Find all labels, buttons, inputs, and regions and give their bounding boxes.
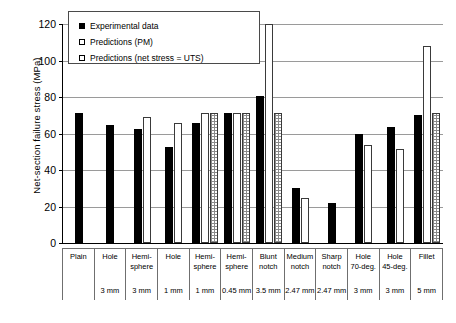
x-category-line2: notch: [322, 262, 340, 272]
bar: [134, 129, 142, 243]
legend-label-uts: Predictions (net stress = UTS): [90, 53, 204, 63]
x-category-line1: Hemi-: [132, 252, 152, 262]
x-category-size: 3.5 mm: [256, 286, 281, 300]
legend-item-experimental: Experimental data: [79, 18, 259, 33]
bar-group: [316, 24, 348, 243]
x-category-line1: Hemi-: [227, 252, 247, 262]
x-axis-category-cell: Hole45-deg.3 mm: [380, 249, 412, 300]
x-category-size: 3 mm: [354, 286, 373, 300]
x-category-size: 3 mm: [132, 286, 151, 300]
x-axis-category-cell: Fillet5 mm: [411, 249, 443, 300]
legend-label-pm: Predictions (PM): [90, 37, 153, 47]
x-axis-category-cell: Mediumnotch2.47 mm: [285, 249, 317, 300]
x-category-size: 3 mm: [386, 286, 405, 300]
x-category-line2: 45-deg.: [382, 262, 407, 272]
x-category-size: 2.47 mm: [285, 286, 314, 300]
x-axis-category-cell: Hemi-sphere1 mm: [190, 249, 222, 300]
bar: [387, 127, 395, 243]
x-category-line1: Medium: [287, 252, 314, 262]
legend-item-pm: Predictions (PM): [79, 34, 259, 49]
chart-legend: Experimental data Predictions (PM) Predi…: [68, 11, 260, 64]
x-axis-category-table: PlainHole3 mmHemi-sphere3 mmHole1 mmHemi…: [62, 248, 443, 300]
x-category-line1: Plain: [70, 252, 87, 262]
x-category-line2: 70-deg.: [351, 262, 376, 272]
legend-item-uts: Predictions (net stress = UTS): [79, 50, 259, 65]
y-tick-label: 20: [44, 201, 56, 213]
x-category-line2: notch: [259, 262, 277, 272]
bar: [364, 145, 372, 243]
bar: [233, 113, 241, 243]
bar: [242, 113, 250, 243]
legend-label-experimental: Experimental data: [90, 21, 159, 31]
bar: [165, 147, 173, 243]
x-category-line1: Sharp: [322, 252, 342, 262]
x-category-size: 1 mm: [164, 286, 183, 300]
x-category-size: 5 mm: [417, 286, 436, 300]
bar: [292, 188, 300, 243]
x-category-line1: Hole: [166, 252, 181, 262]
x-category-size: 0.45 mm: [222, 286, 251, 300]
bar: [192, 123, 200, 243]
x-category-line1: Blunt: [260, 252, 277, 262]
x-axis-category-cell: Hemi-sphere0.45 mm: [221, 249, 253, 300]
bar: [174, 123, 182, 243]
y-tick-label: 100: [38, 55, 56, 67]
x-category-line1: Fillet: [419, 252, 435, 262]
bar: [301, 198, 309, 243]
bar-group: [411, 24, 443, 243]
x-category-size: 3 mm: [101, 286, 120, 300]
y-tick-label: 40: [44, 164, 56, 176]
bar: [274, 113, 282, 243]
bar: [265, 24, 273, 243]
legend-swatch-open-square-icon: [79, 39, 85, 45]
x-category-line1: Hemi-: [195, 252, 215, 262]
x-category-line1: Hole: [356, 252, 371, 262]
x-axis-category-cell: Hole1 mm: [158, 249, 190, 300]
y-tick-label: 60: [44, 128, 56, 140]
bar-group: [380, 24, 412, 243]
x-axis-category-cell: Hole70-deg.3 mm: [348, 249, 380, 300]
x-category-line2: sphere: [193, 262, 216, 272]
bar: [201, 113, 209, 243]
bar: [414, 115, 422, 243]
bar: [106, 125, 114, 243]
x-axis-category-cell: Bluntnotch3.5 mm: [253, 249, 285, 300]
bar: [355, 134, 363, 243]
legend-swatch-dotted-square-icon: [79, 55, 85, 61]
bar: [210, 113, 218, 243]
bar: [432, 113, 440, 243]
bar-group: [348, 24, 380, 243]
x-axis-category-cell: Hole3 mm: [95, 249, 127, 300]
bar: [75, 113, 83, 243]
y-tick-label: 0: [50, 237, 56, 249]
x-axis-category-cell: Sharpnotch2.47 mm: [316, 249, 348, 300]
bar: [224, 113, 232, 243]
y-tick-label: 120: [38, 18, 56, 30]
bar-group: [285, 24, 317, 243]
bar: [328, 203, 336, 243]
bar: [423, 46, 431, 243]
y-tick-label: 80: [44, 91, 56, 103]
x-category-line2: sphere: [225, 262, 248, 272]
x-category-line1: Hole: [102, 252, 117, 262]
y-tick-mark: [59, 243, 63, 244]
x-category-size: 2.47 mm: [317, 286, 346, 300]
x-axis-category-cell: Plain: [63, 249, 95, 300]
x-axis-category-cell: Hemi-sphere3 mm: [126, 249, 158, 300]
legend-swatch-filled-black-square-icon: [79, 23, 85, 29]
x-category-line2: sphere: [130, 262, 153, 272]
bar: [396, 149, 404, 243]
x-category-line1: Hole: [387, 252, 402, 262]
bar: [256, 96, 264, 243]
chart-figure: Net-section failure stress (MPa) 1201008…: [0, 0, 456, 323]
x-category-line2: notch: [291, 262, 309, 272]
bar: [143, 117, 151, 243]
x-category-size: 1 mm: [196, 286, 215, 300]
